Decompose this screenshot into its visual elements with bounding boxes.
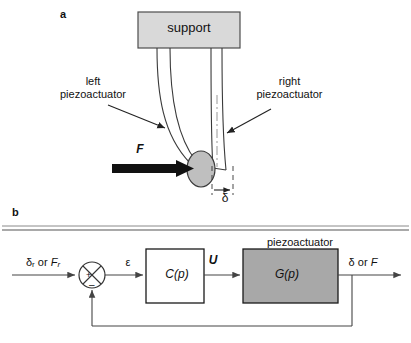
left-beam-inner-edge <box>170 48 196 161</box>
right-piezoactuator-annotation: right piezoactuator <box>232 75 347 101</box>
left-piezoactuator-annotation: left piezoactuator <box>33 75 153 101</box>
figure-canvas: + – <box>0 0 411 343</box>
output-label: δ or F <box>337 256 389 269</box>
right-beam-outer-edge <box>211 48 213 168</box>
support-block-label: support <box>141 21 237 34</box>
right-beam-inner-edge <box>222 48 226 170</box>
controller-block-label: C(p) <box>152 268 202 281</box>
force-label-F: F <box>131 143 149 156</box>
panel-divider <box>2 226 409 230</box>
panel-label-b: b <box>12 206 19 218</box>
summing-junction: + – <box>79 262 105 290</box>
right-annotation-line1: right <box>279 75 300 87</box>
left-annotation-line1: left <box>86 75 101 87</box>
control-signal-label-U: U <box>205 254 221 267</box>
error-label-epsilon: ε <box>120 256 136 269</box>
reference-input-label: δr or Fr <box>8 256 78 271</box>
force-arrow-F <box>112 160 194 177</box>
output-symbol-F: F <box>371 256 378 268</box>
left-annotation-line2: piezoactuator <box>60 88 126 100</box>
panel-label-a: a <box>60 8 66 20</box>
summing-minus-sign: – <box>89 279 95 290</box>
right-annotation-line2: piezoactuator <box>256 88 322 100</box>
output-conjunction: or <box>355 256 371 268</box>
input-subscript-r2: r <box>57 260 60 269</box>
plant-block-label: G(p) <box>262 268 312 281</box>
plant-block-caption: piezoactuator <box>245 236 355 249</box>
input-conjunction: or <box>35 256 51 268</box>
panel-a-group <box>108 12 271 195</box>
left-beam-outer-edge <box>157 48 190 163</box>
deflection-label-delta: δ <box>216 192 234 205</box>
left-annotation-arrow <box>108 105 165 128</box>
right-annotation-arrow <box>227 109 271 133</box>
